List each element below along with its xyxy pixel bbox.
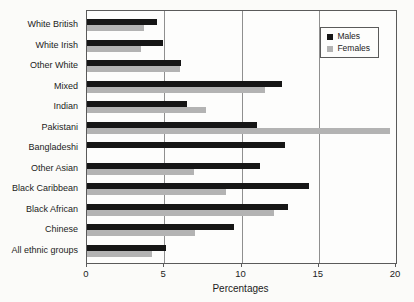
x-tick-mark-10	[241, 263, 242, 267]
category-label-black-african: Black African	[0, 204, 83, 215]
bar-chart-figure: White BritishWhite IrishOther WhiteMixed…	[0, 0, 414, 302]
plot-area: MalesFemales	[86, 10, 397, 264]
category-label-other-asian: Other Asian	[0, 163, 83, 174]
legend: MalesFemales	[320, 27, 379, 58]
category-label-white-irish: White Irish	[0, 40, 83, 51]
x-axis-title: Percentages	[86, 283, 395, 295]
x-tick-mark-15	[318, 263, 319, 267]
category-label-mixed: Mixed	[0, 81, 83, 92]
category-label-chinese: Chinese	[0, 224, 83, 235]
x-tick-mark-0	[86, 263, 87, 267]
legend-item-males: Males	[327, 32, 370, 41]
bar-females-white-british	[87, 25, 144, 31]
bar-females-chinese	[87, 230, 195, 236]
bar-females-white-irish	[87, 46, 141, 52]
bar-females-pakistani	[87, 128, 390, 134]
bar-females-black-african	[87, 210, 274, 216]
x-tick-label-20: 20	[390, 269, 401, 279]
legend-label-males: Males	[337, 32, 360, 41]
x-tick-label-0: 0	[83, 269, 88, 279]
category-label-other-white: Other White	[0, 60, 83, 71]
category-label-all-ethnic-groups: All ethnic groups	[0, 245, 83, 256]
gridline-10	[242, 11, 243, 263]
bar-males-bangladeshi	[87, 142, 285, 148]
x-axis: 05101520	[86, 262, 395, 282]
bar-females-indian	[87, 107, 206, 113]
x-tick-label-10: 10	[235, 269, 246, 279]
category-label-pakistani: Pakistani	[0, 122, 83, 133]
bar-females-other-asian	[87, 169, 194, 175]
category-label-black-caribbean: Black Caribbean	[0, 183, 83, 194]
x-tick-label-15: 15	[312, 269, 323, 279]
x-tick-mark-20	[395, 263, 396, 267]
x-tick-label-5: 5	[161, 269, 166, 279]
x-tick-mark-5	[163, 263, 164, 267]
bar-females-other-white	[87, 66, 180, 72]
gridline-15	[319, 11, 320, 263]
category-label-bangladeshi: Bangladeshi	[0, 142, 83, 153]
y-axis-labels: White BritishWhite IrishOther WhiteMixed…	[0, 0, 83, 302]
legend-swatch-males	[327, 34, 333, 40]
bar-females-all-ethnic-groups	[87, 251, 152, 257]
category-label-indian: Indian	[0, 101, 83, 112]
bar-females-mixed	[87, 87, 265, 93]
legend-swatch-females	[327, 46, 333, 52]
bar-females-black-caribbean	[87, 189, 226, 195]
legend-item-females: Females	[327, 44, 370, 53]
category-label-white-british: White British	[0, 19, 83, 30]
legend-label-females: Females	[337, 44, 370, 53]
